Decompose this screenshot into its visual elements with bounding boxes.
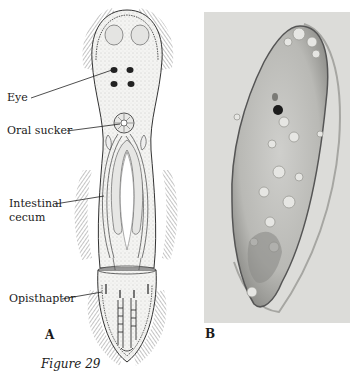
panel-label-b: B: [205, 327, 215, 341]
label-oral-sucker: Oral sucker: [7, 125, 72, 137]
oral-sucker: [114, 113, 134, 133]
panel-a-drawing: [0, 0, 200, 378]
label-opisthaptor: Opisthaptor: [9, 293, 76, 305]
eye-spot: [273, 105, 283, 115]
head-gland-right: [131, 25, 149, 45]
panel-label-a: A: [45, 328, 54, 342]
cilia-tuft-mid-left: [75, 170, 92, 260]
label-intestinal-cecum-line1: Intestinal: [9, 198, 62, 210]
panel-b-photomicrograph: [204, 12, 350, 323]
cilia-tuft-mid-right: [162, 170, 178, 260]
label-eye: Eye: [7, 92, 28, 104]
label-intestinal-cecum-line2: cecum: [9, 212, 45, 224]
figure-caption: Figure 29: [41, 357, 101, 371]
head-gland-left: [105, 25, 123, 45]
